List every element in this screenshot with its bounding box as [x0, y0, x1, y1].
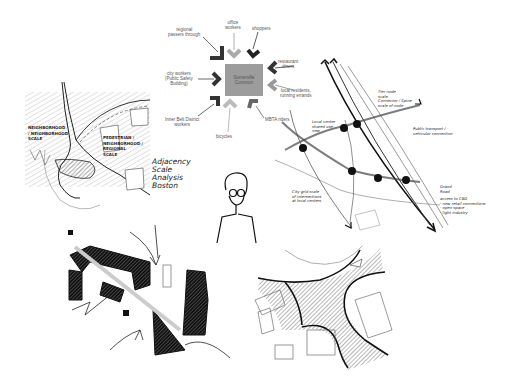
- label-innerbelt: Inner Belt District workers: [165, 117, 199, 127]
- label-local-center: Local center shared use new: [312, 120, 335, 134]
- label-line: workers: [225, 25, 241, 30]
- label-line: scale of node: [378, 104, 412, 109]
- label-line: NEIGHBORHOOD: [28, 125, 68, 131]
- label-bicycles: bicycles: [216, 134, 232, 139]
- label-shoppers: shoppers: [252, 26, 271, 31]
- label-local: local residents, running errands: [280, 88, 312, 98]
- label-mbta: MBTA riders: [265, 117, 289, 122]
- label-restaurant: restaurant diners: [278, 59, 298, 69]
- label-line: Building): [165, 81, 193, 86]
- label-line: Boston: [152, 182, 191, 190]
- right-network-sketch: [275, 59, 448, 231]
- center-label-2: Common: [235, 80, 253, 85]
- label-line: Road: [440, 190, 452, 195]
- diagram-canvas: [0, 0, 505, 390]
- label-line: bicycles: [216, 134, 232, 139]
- label-office: office workers: [225, 20, 241, 30]
- label-line: vehicular connection: [413, 132, 453, 137]
- label-line: SCALE: [28, 136, 68, 142]
- label-grand-road: Grand Road: [440, 185, 452, 194]
- label-public-transport: Public transport / vehicular connection: [413, 127, 453, 136]
- label-line: - light industry: [440, 211, 486, 216]
- label-neighborhood-scale: NEIGHBORHOOD / NEIGHBORHOOD SCALE: [28, 125, 68, 142]
- label-line: at local centers: [292, 199, 321, 204]
- label-tier-node: Tier node scale Connector / Spine scale …: [378, 90, 412, 108]
- label-line: workers: [165, 122, 199, 127]
- label-adjacency-analysis: Adjacency Scale Analysis Boston: [152, 158, 191, 190]
- bottom-left-plan: [68, 225, 230, 358]
- label-regional-scale: PEDESTRIAN / NEIGHBORHOOD / REGIONAL SCA…: [103, 135, 143, 157]
- label-access: access to CBD - new retail connections -…: [440, 197, 486, 215]
- label-city-grid: City grid scale of intersections at loca…: [292, 190, 321, 204]
- label-line: running errands: [280, 93, 312, 98]
- label-regional: regional passers through: [168, 27, 200, 37]
- label-line: passers through: [168, 32, 200, 37]
- bottom-right-plan: [255, 246, 392, 370]
- label-line: MBTA riders: [265, 117, 289, 122]
- label-line: SCALE: [103, 152, 143, 158]
- label-city: city workers (Public Safety Building): [165, 71, 193, 86]
- label-line: new: [312, 129, 335, 134]
- center-node: Somerville Common: [225, 64, 263, 96]
- label-line: shoppers: [252, 26, 271, 31]
- label-line: diners: [278, 64, 298, 69]
- person-icon: [217, 173, 256, 243]
